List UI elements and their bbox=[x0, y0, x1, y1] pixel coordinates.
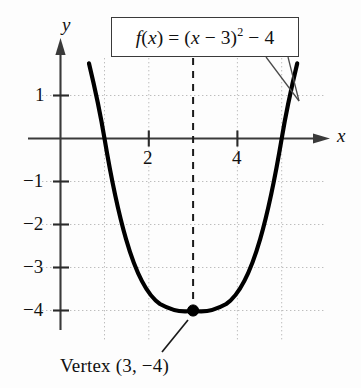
formula-minus-1: − bbox=[200, 27, 221, 48]
formula-expression: f(x) = (x − 3)2 − 4 bbox=[136, 25, 274, 49]
x-axis-name-label: x bbox=[337, 125, 345, 147]
vertex-caption-label: Vertex (3, −4) bbox=[60, 355, 169, 377]
y-tick-label-neg2: −2 bbox=[23, 213, 43, 235]
x-axis-arrowhead bbox=[313, 133, 330, 143]
tick-marks bbox=[53, 96, 237, 311]
vertex-point-marker bbox=[188, 305, 199, 316]
y-tick-label-neg3: −3 bbox=[23, 256, 43, 278]
formula-minus-2: − bbox=[243, 27, 264, 48]
y-axis-arrowhead bbox=[55, 38, 65, 55]
y-tick-label-neg4: −4 bbox=[23, 299, 43, 321]
vertex-leader-line bbox=[162, 320, 188, 352]
plot-canvas bbox=[0, 0, 361, 388]
formula-var-1: x bbox=[148, 27, 157, 48]
grid-lines bbox=[42, 58, 325, 340]
formula-var-2: x bbox=[191, 27, 200, 48]
parabola-figure: f(x) = (x − 3)2 − 4 y x 1 −1 −2 −3 −4 2 … bbox=[0, 0, 361, 388]
y-axis-name-label: y bbox=[62, 14, 70, 36]
formula-four: 4 bbox=[264, 27, 274, 48]
formula-callout-pointer bbox=[266, 57, 299, 101]
y-tick-label-neg1: −1 bbox=[23, 170, 43, 192]
formula-paren-open-2: ( bbox=[184, 27, 191, 48]
x-tick-label-4: 4 bbox=[232, 147, 242, 169]
formula-equals: = bbox=[163, 27, 184, 48]
formula-callout-box: f(x) = (x − 3)2 − 4 bbox=[111, 17, 299, 57]
formula-paren-open-1: ( bbox=[141, 27, 148, 48]
y-tick-label-1: 1 bbox=[35, 84, 45, 106]
formula-three: 3 bbox=[221, 27, 231, 48]
x-tick-label-2: 2 bbox=[143, 147, 153, 169]
